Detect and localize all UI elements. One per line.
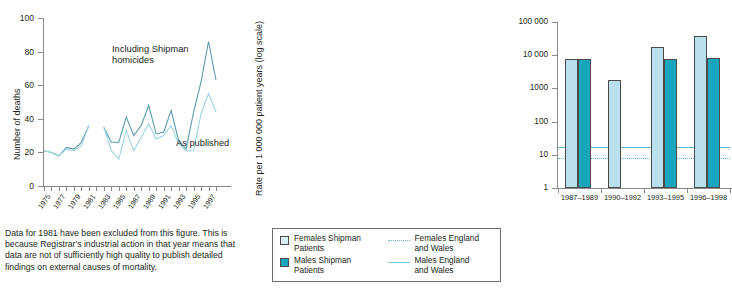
x-tick (179, 187, 180, 191)
x-tick (209, 187, 210, 191)
x-tick (66, 187, 67, 191)
figure-caption: Data for 1981 have been excluded from th… (5, 228, 239, 273)
x-tick (111, 187, 112, 191)
x-tick (164, 187, 165, 191)
legend-row: Males Shipman Patients Males England and… (279, 256, 494, 278)
x-tick (126, 187, 127, 191)
bar (608, 80, 621, 188)
line-series-as-published (104, 94, 216, 160)
x-tick (119, 187, 120, 191)
x-tick-label: 1987–1989 (558, 194, 601, 201)
legend-label-line2: Patients (294, 243, 324, 253)
y-tick-label: 40 (0, 115, 34, 124)
bar (565, 59, 578, 188)
legend-row: Females Shipman Patients Females England… (279, 234, 494, 256)
bar (664, 59, 677, 188)
legend-label-line2: and Wales (415, 243, 454, 253)
x-tick (644, 189, 645, 193)
y-tick-label: 60 (0, 81, 34, 90)
legend: Females Shipman Patients Females England… (272, 228, 501, 282)
y-tick (38, 18, 43, 19)
x-tick (141, 187, 142, 191)
legend-label-line1: Females England (415, 233, 480, 243)
male-swatch-icon (280, 258, 289, 267)
legend-item-label: Females England and Wales (415, 234, 480, 253)
x-tick (51, 187, 52, 191)
right-chart-y-axis-title: Rate per 1 000 000 patient years (log sc… (254, 21, 264, 196)
legend-item-label: Females Shipman Patients (294, 234, 361, 253)
line-series-including-shipman-homicides (44, 126, 89, 156)
y-tick (38, 85, 43, 86)
x-tick (96, 187, 97, 191)
legend-item-females-shipman[interactable]: Females Shipman Patients (279, 234, 387, 253)
y-tick (38, 52, 43, 53)
y-tick-label: 100 (500, 118, 548, 126)
y-tick-label: 10 000 (500, 51, 548, 59)
y-tick-label: 100 (0, 14, 34, 23)
annotation-including-shipman: Including Shipman homicides (112, 44, 189, 66)
x-tick (44, 187, 45, 191)
x-tick-label: 1993–1995 (644, 194, 687, 201)
y-tick (552, 188, 557, 189)
x-tick (687, 189, 688, 193)
x-tick (730, 189, 731, 193)
right-chart-plot-area (558, 22, 730, 188)
x-tick (59, 187, 60, 191)
x-tick (81, 187, 82, 191)
x-tick (134, 187, 135, 191)
x-tick (201, 187, 202, 191)
x-tick (156, 187, 157, 191)
y-tick-label: 0 (0, 182, 34, 191)
y-tick (38, 119, 43, 120)
x-tick (104, 187, 105, 191)
annotation-as-published: As published (176, 138, 229, 149)
bar-chart-rate: Rate per 1 000 000 patient years (log sc… (246, 0, 508, 210)
x-tick-label: 1990–1992 (601, 194, 644, 201)
legend-label-line2: and Wales (415, 265, 454, 275)
y-tick-label: 20 (0, 148, 34, 157)
bar (651, 47, 664, 188)
y-tick (552, 155, 557, 156)
legend-item-label: Males Shipman Patients (294, 256, 351, 275)
y-tick (552, 55, 557, 56)
annotation-including-shipman-line1: Including Shipman (112, 44, 189, 55)
dotted-line-swatch-icon (388, 236, 410, 245)
legend-label-line2: Patients (294, 265, 324, 275)
y-tick-label: 100 000 (500, 18, 548, 26)
x-tick (216, 187, 217, 191)
x-tick (194, 187, 195, 191)
y-tick (552, 22, 557, 23)
left-chart-x-axis (43, 186, 231, 187)
bar (694, 36, 707, 188)
y-tick-label: 10 (500, 151, 548, 159)
legend-item-males-shipman[interactable]: Males Shipman Patients (279, 256, 387, 275)
line-chart-deaths: Number of deaths 020406080100 1975197719… (0, 0, 246, 205)
y-tick (38, 186, 43, 187)
legend-label-line1: Females Shipman (294, 233, 361, 243)
bar (578, 59, 591, 188)
x-tick-label: 1996–1998 (687, 194, 730, 201)
y-tick-label: 1000 (500, 84, 548, 92)
legend-item-males-england-wales[interactable]: Males England and Wales (387, 256, 495, 275)
annotation-including-shipman-line2: homicides (112, 55, 189, 66)
x-tick (171, 187, 172, 191)
x-tick (149, 187, 150, 191)
x-tick (558, 189, 559, 193)
legend-label-line1: Males England (415, 255, 470, 265)
x-tick (186, 187, 187, 191)
y-tick-label: 1 (500, 184, 548, 192)
legend-item-label: Males England and Wales (415, 256, 470, 275)
legend-label-line1: Males Shipman (294, 255, 351, 265)
y-tick (552, 88, 557, 89)
y-tick (38, 152, 43, 153)
y-tick-label: 80 (0, 48, 34, 57)
x-tick (601, 189, 602, 193)
bar (707, 58, 720, 188)
female-swatch-icon (280, 236, 289, 245)
y-tick (552, 122, 557, 123)
x-tick (74, 187, 75, 191)
legend-item-females-england-wales[interactable]: Females England and Wales (387, 234, 495, 253)
solid-line-swatch-icon (388, 258, 410, 267)
x-tick (89, 187, 90, 191)
